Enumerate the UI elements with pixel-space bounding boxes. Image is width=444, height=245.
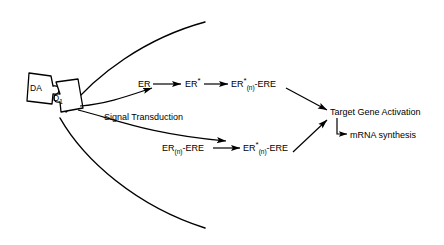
node-er-star: ER* bbox=[185, 80, 201, 89]
node-er-star-n-ere-bottom: ER*(n)-ERE bbox=[243, 144, 288, 153]
node-er-star-n-ere-bottom-sub: (n) bbox=[259, 148, 267, 155]
diagram-vector-layer bbox=[0, 0, 444, 245]
node-er-star-sup: * bbox=[198, 76, 201, 85]
node-er-star-n-ere-top-base: ER bbox=[231, 79, 244, 89]
arrow-upper-to-target bbox=[286, 88, 327, 110]
mrna-synthesis-label: mRNA synthesis bbox=[350, 131, 416, 140]
node-er-star-n-ere-top-sub: (n) bbox=[247, 84, 255, 91]
dopamine-ligand-label: DA bbox=[30, 84, 42, 93]
node-er-star-n-ere-bottom-tail: -ERE bbox=[267, 143, 289, 153]
node-er-n-ere-bottom-tail: -ERE bbox=[182, 143, 204, 153]
target-gene-activation-label: Target Gene Activation bbox=[330, 108, 421, 117]
diagram-canvas: DA D1 ER ER* ER*(n)-ERE ER(n)-ERE ER*(n)… bbox=[0, 0, 444, 245]
node-er-star-n-ere-top: ER*(n)-ERE bbox=[231, 80, 276, 89]
signal-transduction-label: Signal Transduction bbox=[104, 113, 183, 122]
arrow-lower-to-target bbox=[293, 120, 327, 152]
node-er-star-n-ere-bottom-base: ER bbox=[243, 143, 256, 153]
node-er-star-base: ER bbox=[185, 79, 198, 89]
node-er-n-ere-bottom-base: ER bbox=[162, 143, 175, 153]
arrow-target-to-mrna bbox=[337, 118, 347, 134]
d1-receptor-label: D1 bbox=[53, 94, 63, 103]
membrane-curve-lower bbox=[60, 118, 205, 228]
membrane-curve-upper bbox=[66, 22, 205, 112]
node-er-n-ere-bottom: ER(n)-ERE bbox=[162, 144, 204, 153]
node-er-star-n-ere-top-tail: -ERE bbox=[255, 79, 277, 89]
node-er: ER bbox=[138, 80, 151, 89]
d1-receptor-subscript: 1 bbox=[59, 98, 63, 105]
arrow-receptor-to-er bbox=[80, 88, 152, 106]
